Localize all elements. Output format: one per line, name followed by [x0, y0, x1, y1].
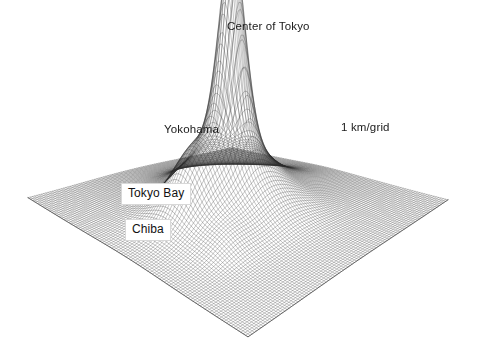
annotation-scale-1-km-per-grid: 1 km/grid [341, 121, 390, 133]
annotation-chiba: Chiba [125, 219, 171, 241]
annotation-tokyo-bay: Tokyo Bay [121, 183, 191, 205]
annotation-yokohama: Yokohama [164, 123, 219, 135]
annotation-center-of-tokyo: Center of Tokyo [227, 20, 310, 32]
wireframe-surface-mesh [0, 0, 478, 355]
surface-plot-figure: Center of Tokyo Yokohama 1 km/grid Tokyo… [0, 0, 478, 355]
